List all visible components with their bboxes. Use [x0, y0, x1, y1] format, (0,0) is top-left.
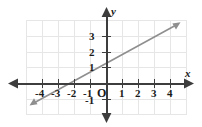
- x-axis-arrow-right: [184, 79, 194, 89]
- y-axis-arrow-up: [102, 7, 112, 17]
- graph-canvas: [0, 0, 202, 127]
- y-tick-label-2: 2: [89, 47, 95, 58]
- x-axis-arrow-left: [8, 79, 18, 89]
- x-tick-label-neg-4: -4: [35, 88, 44, 99]
- y-tick-label-1: 1: [89, 62, 95, 73]
- x-tick-label-neg-1: -1: [83, 88, 92, 99]
- y-axis-label: y: [111, 6, 116, 17]
- x-tick-label-neg-3: -3: [51, 88, 60, 99]
- x-tick-label-3: 3: [151, 88, 157, 99]
- x-tick-label-2: 2: [135, 88, 141, 99]
- y-tick-label-3: 3: [89, 31, 95, 42]
- x-tick-label-4: 4: [167, 88, 173, 99]
- origin-label: O: [97, 87, 106, 99]
- coordinate-plane-figure: 3 2 1 -1 -4 -3 -2 -1 O 1 2 3 4 y x: [0, 0, 202, 127]
- y-axis-arrow-down: [102, 113, 112, 123]
- x-tick-label-neg-2: -2: [67, 88, 76, 99]
- x-axis-label: x: [185, 68, 191, 79]
- x-tick-label-1: 1: [119, 88, 125, 99]
